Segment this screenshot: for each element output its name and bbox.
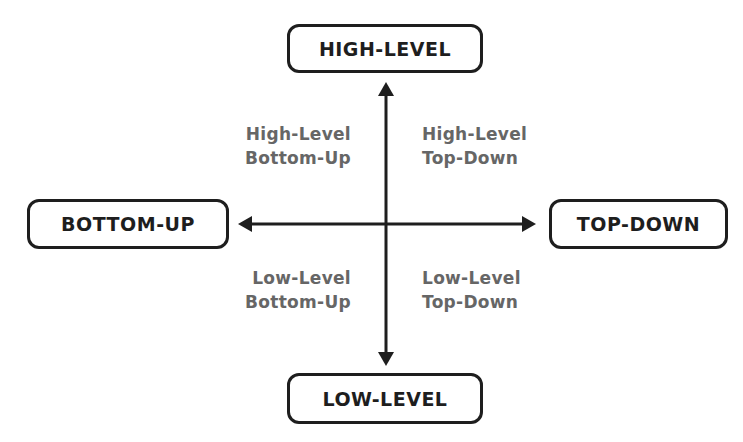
axis-label-bottom-up: BOTTOM-UP	[27, 199, 229, 249]
quadrant-high-level-bottom-up: High-Level Bottom-Up	[245, 122, 351, 170]
quadrant-low-level-top-down: Low-Level Top-Down	[422, 266, 521, 314]
quadrant-line-2: Bottom-Up	[245, 146, 351, 170]
axis-label-top-down: TOP-DOWN	[549, 199, 728, 249]
arrow-up-icon	[378, 82, 394, 96]
quadrant-line-1: High-Level	[422, 122, 527, 146]
quadrant-line-2: Top-Down	[422, 146, 527, 170]
quadrant-line-2: Top-Down	[422, 290, 521, 314]
arrow-down-icon	[378, 352, 394, 366]
quadrant-low-level-bottom-up: Low-Level Bottom-Up	[245, 266, 351, 314]
arrow-right-icon	[522, 216, 536, 232]
axis-label-text: BOTTOM-UP	[61, 213, 195, 235]
axis-label-high-level: HIGH-LEVEL	[287, 24, 483, 73]
arrow-left-icon	[238, 216, 252, 232]
quadrant-line-2: Bottom-Up	[245, 290, 351, 314]
quadrant-line-1: Low-Level	[422, 266, 521, 290]
axis-label-text: TOP-DOWN	[577, 213, 700, 235]
quadrant-line-1: High-Level	[245, 122, 351, 146]
axis-label-text: HIGH-LEVEL	[319, 38, 451, 60]
axis-label-low-level: LOW-LEVEL	[287, 373, 483, 424]
quadrant-high-level-top-down: High-Level Top-Down	[422, 122, 527, 170]
quadrant-line-1: Low-Level	[245, 266, 351, 290]
axis-label-text: LOW-LEVEL	[323, 388, 448, 410]
